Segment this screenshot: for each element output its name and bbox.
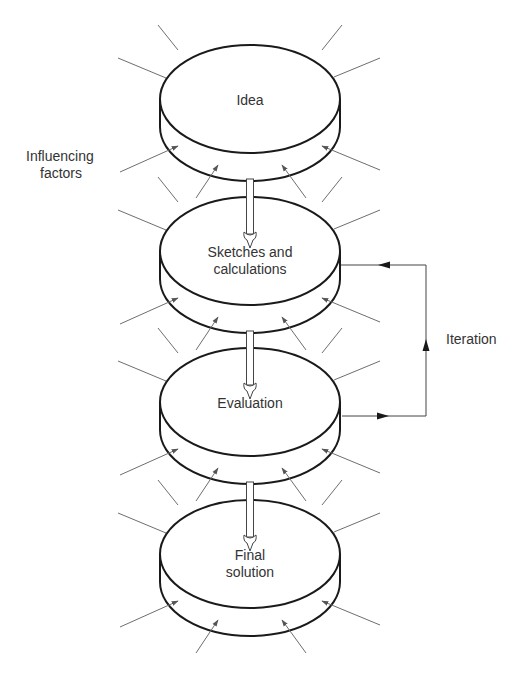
influencing-factor-line <box>322 328 342 353</box>
influencing-factor-arrow <box>322 146 380 170</box>
influencing-factor-line <box>158 480 178 505</box>
influencing-factor-arrow <box>322 298 380 322</box>
influencing-factor-line <box>118 58 166 78</box>
influencing-factor-arrow <box>120 298 178 324</box>
influencing-factor-arrow <box>322 449 380 473</box>
stage-evaluation-label: Evaluation <box>170 395 330 412</box>
stage-idea-label: Idea <box>170 92 330 109</box>
influencing-factor-line <box>334 513 380 532</box>
influencing-factor-line <box>334 210 380 229</box>
arrow-left-icon <box>378 262 390 269</box>
stage-sketches-label: Sketches andcalculations <box>170 244 330 278</box>
influencing-factor-line <box>118 210 166 230</box>
iteration-loop <box>341 262 430 420</box>
stage-final-label: Finalsolution <box>170 547 330 581</box>
arrow-right-icon <box>377 413 389 420</box>
influencing-factor-arrow <box>120 146 178 172</box>
iteration-label: Iteration <box>446 331 497 348</box>
arrow-up-icon <box>423 339 430 351</box>
influencing-factor-line <box>158 25 178 50</box>
influencing-factor-line <box>322 480 342 505</box>
stage-idea-disc <box>118 25 380 198</box>
influencing-factor-line <box>322 177 342 202</box>
influencing-factor-line <box>118 361 166 381</box>
influencing-factor-line <box>322 25 342 50</box>
influencing-factor-line <box>334 361 380 380</box>
influencing-factor-line <box>118 513 166 533</box>
influencing-factor-line <box>158 328 178 353</box>
influencing-factor-arrow <box>120 449 178 475</box>
influencing-factor-line <box>334 58 380 77</box>
influencing-factors-label: Influencing factors <box>26 148 94 182</box>
influencing-factor-arrow <box>322 601 380 625</box>
influencing-factor-line <box>158 177 178 202</box>
influencing-factor-arrow <box>120 601 178 627</box>
